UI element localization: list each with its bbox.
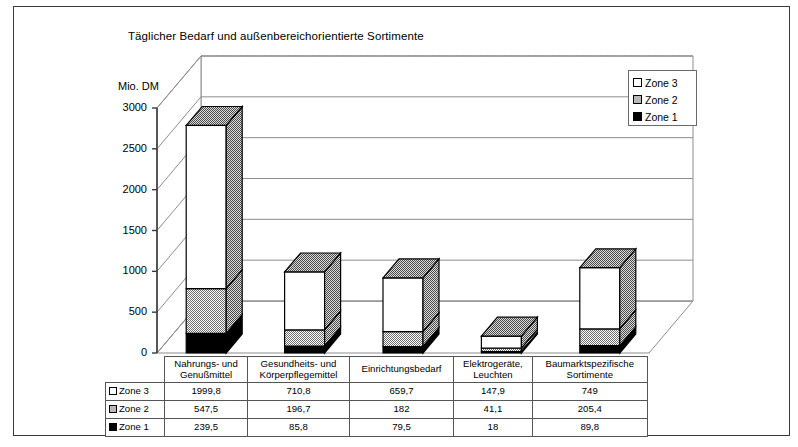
table-column-header: Nahrungs- undGenußmittel xyxy=(165,357,248,383)
white-square-icon xyxy=(109,387,117,395)
table-row: Zone 2547,5196,718241,1205,4 xyxy=(106,401,648,419)
table-row-label: Zone 2 xyxy=(106,401,165,419)
table-column-header: Gesundheits- undKörperpflegemittel xyxy=(248,357,350,383)
table-row-label: Zone 3 xyxy=(106,383,165,401)
y-axis-tick-label: 3000 xyxy=(101,101,147,113)
table-cell: 659,7 xyxy=(349,383,453,401)
table-row-label: Zone 1 xyxy=(106,419,165,437)
table-cell: 1999,8 xyxy=(165,383,248,401)
gray-square-icon xyxy=(633,95,642,104)
table-cell: 205,4 xyxy=(532,401,647,419)
table-cell: 85,8 xyxy=(248,419,350,437)
table-cell: 749 xyxy=(532,383,647,401)
table-column-header: BaumarktspezifischeSortimente xyxy=(532,357,647,383)
table-cell: 547,5 xyxy=(165,401,248,419)
table-header-row: Nahrungs- undGenußmittelGesundheits- und… xyxy=(106,357,648,383)
y-axis-tick-label: 2500 xyxy=(101,142,147,154)
legend-label: Zone 1 xyxy=(645,111,678,123)
chart-title: Täglicher Bedarf und außenbereichorienti… xyxy=(128,30,424,42)
chart-legend: Zone 3 Zone 2 Zone 1 xyxy=(628,70,697,126)
y-axis-tick-label: 1000 xyxy=(101,264,147,276)
table-cell: 147,9 xyxy=(454,383,532,401)
table-cell: 79,5 xyxy=(349,419,453,437)
y-axis-tick-label: 2000 xyxy=(101,183,147,195)
legend-item: Zone 1 xyxy=(633,108,696,125)
y-axis-tick-label: 1500 xyxy=(101,224,147,236)
table-row: Zone 31999,8710,8659,7147,9749 xyxy=(106,383,648,401)
table-column-header: Elektrogeräte,Leuchten xyxy=(454,357,532,383)
table-cell: 710,8 xyxy=(248,383,350,401)
black-square-icon xyxy=(109,423,117,431)
legend-item: Zone 2 xyxy=(633,91,696,108)
black-square-icon xyxy=(633,112,642,121)
table-column-header: Einrichtungsbedarf xyxy=(349,357,453,383)
table-cell: 89,8 xyxy=(532,419,647,437)
table-row-label-text: Zone 2 xyxy=(119,404,149,415)
table-cell: 239,5 xyxy=(165,419,248,437)
table-cell: 18 xyxy=(454,419,532,437)
table-cell: 41,1 xyxy=(454,401,532,419)
table-cell: 196,7 xyxy=(248,401,350,419)
table-corner-cell xyxy=(106,357,165,383)
chart-screenshot: Täglicher Bedarf und außenbereichorienti… xyxy=(0,0,798,447)
gray-square-icon xyxy=(109,405,117,413)
y-axis-unit-label: Mio. DM xyxy=(118,80,159,92)
data-table: Nahrungs- undGenußmittelGesundheits- und… xyxy=(105,356,648,437)
legend-item: Zone 3 xyxy=(633,74,696,91)
white-square-icon xyxy=(633,78,642,87)
y-axis-tick-label: 500 xyxy=(101,305,147,317)
table-cell: 182 xyxy=(349,401,453,419)
legend-label: Zone 3 xyxy=(645,77,678,89)
table-row-label-text: Zone 1 xyxy=(119,422,149,433)
table-row: Zone 1239,585,879,51889,8 xyxy=(106,419,648,437)
legend-label: Zone 2 xyxy=(645,94,678,106)
table-row-label-text: Zone 3 xyxy=(119,386,149,397)
